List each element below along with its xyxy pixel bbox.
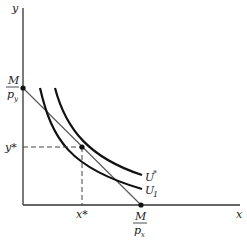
y-intercept-point [20,85,25,90]
svg-text:x: x [141,231,145,239]
svg-text:y: y [13,95,19,103]
indifference-curve-u-star [55,88,142,175]
svg-text:*: * [153,169,157,178]
optimum-point [79,144,84,149]
indifference-curve-u1 [40,88,142,189]
y-intercept-label: M p y [6,74,20,103]
svg-text:p: p [134,224,141,237]
x-star-label: x* [76,208,88,221]
x-axis-label: x [236,208,243,221]
u-star-label: U * [145,169,157,184]
x-intercept-point [138,202,143,207]
svg-text:M: M [7,74,20,87]
svg-text:1: 1 [153,190,158,199]
u1-label: U 1 [145,184,158,199]
svg-text:p: p [7,88,14,101]
y-star-label: y* [4,141,17,154]
svg-text:M: M [134,210,147,223]
y-axis-label: y [11,2,19,15]
x-intercept-label: M p x [133,210,147,239]
utility-maximization-diagram: y x M p y M p x y* x* U * U 1 [0,0,247,240]
